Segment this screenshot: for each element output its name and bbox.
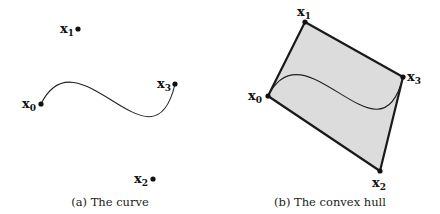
point-label-0: x0 bbox=[22, 96, 36, 113]
bezier-figure: x0x1x2x3(a) The curve x0x1x2x3(b) The co… bbox=[0, 0, 440, 214]
control-point-2 bbox=[150, 176, 155, 181]
control-point-0 bbox=[38, 101, 43, 106]
point-label-1: x1 bbox=[60, 21, 74, 38]
control-point-0 bbox=[265, 93, 270, 98]
point-label-3: x3 bbox=[157, 76, 171, 93]
point-label-0: x0 bbox=[248, 88, 262, 105]
point-label-1: x1 bbox=[297, 4, 311, 21]
point-label-2: x2 bbox=[134, 171, 148, 188]
convex-hull-polygon bbox=[268, 22, 403, 171]
point-label-3: x3 bbox=[407, 69, 421, 86]
bezier-curve bbox=[41, 82, 175, 117]
control-point-3 bbox=[172, 81, 177, 86]
panel-convex-hull: x0x1x2x3(b) The convex hull bbox=[248, 4, 421, 209]
panel-caption: (a) The curve bbox=[71, 195, 149, 209]
point-label-2: x2 bbox=[372, 175, 386, 192]
panel-curve: x0x1x2x3(a) The curve bbox=[22, 21, 178, 209]
control-point-2 bbox=[377, 168, 382, 173]
control-point-1 bbox=[75, 26, 80, 31]
control-point-3 bbox=[400, 74, 405, 79]
panel-caption: (b) The convex hull bbox=[274, 195, 386, 209]
